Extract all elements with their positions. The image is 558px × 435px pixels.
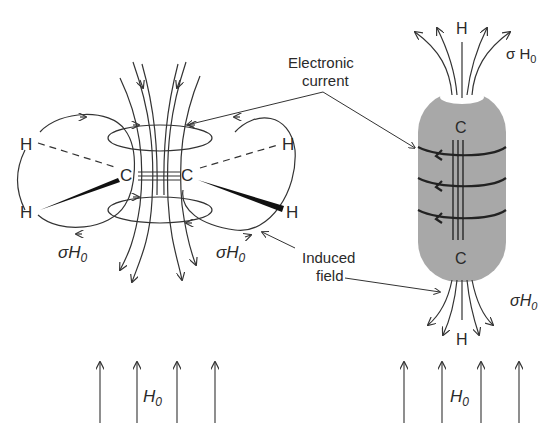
atom-h: H [286,203,298,222]
hh-arc-left [18,150,26,210]
sigma-h0-right: σH0 [216,243,246,265]
dashed-bond-left [38,143,118,168]
atom-h-bottom: H [456,331,468,348]
sigma-h0-left: σH0 [58,243,88,265]
diagram-canvas: H H C C H H σH0 σH0 [0,0,558,435]
dashed-bond-right [200,145,278,168]
induced-field-label: Induced [302,249,355,266]
lower-current-ring [108,197,212,223]
h0-left-label: H0 [143,387,162,409]
right-field-loop [183,118,296,231]
atom-h: H [20,135,32,154]
upper-current-ring [108,125,212,151]
electronic-current-pointers [187,92,415,148]
left-atoms: H H C C H H [20,135,298,222]
atom-h-top: H [456,20,468,37]
atom-c: C [181,166,193,185]
induced-field-label-2: field [316,267,344,284]
sigma-h0-bottom: σH0 [510,292,538,312]
electronic-current-label: Electronic [288,54,354,71]
atom-c: C [120,166,132,185]
atom-h: H [20,203,32,222]
right-molecule [415,28,510,335]
h0-right-label: H0 [450,387,469,409]
atom-c-top: C [455,119,467,136]
electronic-current-label-2: current [302,72,350,89]
sigma-h0-top: σ H0 [506,45,536,65]
applied-field-arrows-left [100,362,215,423]
atom-c-bottom: C [455,250,467,267]
wedge-bond-left [40,178,120,210]
atom-h: H [282,135,294,154]
